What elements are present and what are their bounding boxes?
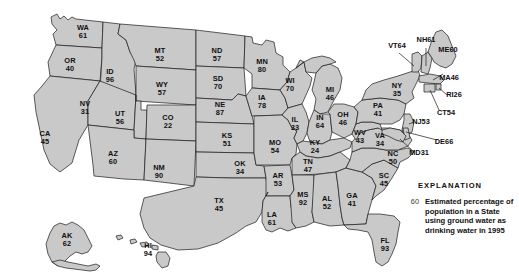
state-label-tn: TN47 (303, 158, 313, 174)
callout-label-de: DE66 (435, 138, 454, 146)
state-value: 31 (80, 108, 90, 116)
legend-line-1: Estimated percentage of (425, 197, 513, 207)
state-value: 45 (379, 180, 389, 188)
state-shape-nm (144, 139, 196, 186)
state-abbr: MA (439, 73, 451, 82)
state-value: 66 (445, 137, 453, 146)
state-label-ok: OK34 (234, 160, 245, 176)
callout-label-ct: CT54 (437, 109, 455, 117)
legend-sample-value: 60 (404, 197, 419, 206)
state-label-sd: SD70 (213, 75, 223, 91)
state-value: 22 (162, 122, 173, 130)
state-label-wi: WI70 (285, 77, 294, 93)
state-shape-tx (140, 177, 268, 250)
state-value: 53 (422, 117, 430, 126)
legend-body: 60 Estimated percentage of population in… (404, 197, 519, 235)
state-label-tx: TX45 (214, 197, 224, 213)
state-abbr: CT (437, 108, 447, 117)
state-value: 70 (285, 85, 294, 93)
state-label-nv: NV31 (80, 100, 90, 116)
state-label-pa: PA41 (373, 102, 383, 118)
state-label-or: OR40 (64, 57, 75, 73)
callout-label-vt: VT64 (388, 42, 406, 50)
state-shape-hi-1 (116, 235, 123, 240)
state-value: 41 (346, 200, 357, 208)
state-value: 46 (326, 94, 334, 102)
state-value: 52 (322, 203, 332, 211)
legend-line-3: using ground water as (425, 216, 513, 226)
state-value: 94 (144, 250, 152, 258)
state-value: 24 (310, 147, 320, 155)
legend-description: Estimated percentage of population in a … (425, 197, 513, 235)
us-groundwater-map: WA61OR40ID96MT52ND57MN80WI70MI46SD70NE87… (0, 0, 519, 277)
state-value: 33 (291, 124, 299, 132)
state-shape-ct (424, 84, 435, 92)
state-value: 40 (64, 65, 75, 73)
state-label-il: IL33 (291, 116, 299, 132)
state-value: 92 (297, 199, 308, 207)
state-label-id: ID96 (106, 68, 114, 84)
callout-label-ma: MA46 (439, 74, 459, 82)
state-value: 60 (449, 45, 457, 54)
state-value: 54 (269, 147, 281, 155)
state-value: 46 (337, 119, 348, 127)
state-value: 93 (380, 245, 389, 253)
state-label-hi: HI94 (144, 242, 152, 258)
state-label-va: VA34 (375, 132, 385, 148)
state-value: 31 (421, 148, 429, 157)
state-value: 54 (447, 108, 455, 117)
state-label-oh: OH46 (337, 111, 348, 127)
state-label-ut: UT56 (115, 110, 125, 126)
state-label-ms: MS92 (297, 191, 308, 207)
callout-label-nj: NJ53 (412, 118, 430, 126)
state-value: 50 (388, 158, 399, 166)
state-value: 53 (273, 180, 284, 188)
state-value: 52 (155, 55, 166, 63)
state-value: 45 (40, 138, 51, 146)
state-label-co: CO22 (162, 114, 173, 130)
state-label-mo: MO54 (269, 139, 281, 155)
state-value: 64 (316, 122, 324, 130)
state-abbr: MD (409, 148, 421, 157)
state-value: 51 (222, 140, 232, 148)
state-shape-hi-2 (130, 239, 137, 244)
state-label-ga: GA41 (346, 192, 357, 208)
state-label-mn: MN80 (256, 58, 268, 74)
state-value: 70 (213, 83, 223, 91)
state-label-ky: KY24 (310, 139, 320, 155)
state-value: 43 (354, 137, 366, 145)
legend-line-4: drinking water in 1995 (425, 226, 513, 236)
state-value: 78 (258, 102, 266, 110)
state-label-ny: NY35 (392, 82, 402, 98)
state-value: 57 (156, 89, 168, 97)
state-value: 57 (212, 55, 223, 63)
callout-label-ri: RI26 (446, 91, 462, 99)
state-label-ks: KS51 (222, 132, 232, 148)
state-value: 35 (392, 90, 402, 98)
state-value: 34 (234, 168, 245, 176)
state-value: 56 (115, 118, 125, 126)
state-value: 96 (106, 76, 114, 84)
state-value: 64 (398, 41, 406, 50)
state-label-in: IN64 (316, 114, 324, 130)
state-label-wv: WV43 (354, 129, 366, 145)
state-label-ne: NE87 (215, 101, 225, 117)
state-value: 60 (108, 158, 118, 166)
state-value: 61 (267, 219, 277, 227)
state-abbr: NH (417, 35, 428, 44)
state-label-la: LA61 (267, 211, 277, 227)
state-label-ia: IA78 (258, 94, 266, 110)
state-shape-ak-tail (52, 260, 100, 271)
state-abbr: ME (438, 45, 449, 54)
state-value: 62 (62, 240, 73, 248)
state-value: 87 (215, 109, 225, 117)
state-value: 61 (427, 35, 435, 44)
state-shapes (34, 14, 456, 271)
state-value: 41 (373, 110, 383, 118)
state-value: 34 (375, 140, 385, 148)
state-label-wy: WY57 (156, 81, 168, 97)
callout-label-md: MD31 (409, 149, 429, 157)
state-label-nd: ND57 (212, 47, 223, 63)
state-label-nm: NM90 (153, 164, 165, 180)
state-shape-vt (412, 52, 422, 72)
